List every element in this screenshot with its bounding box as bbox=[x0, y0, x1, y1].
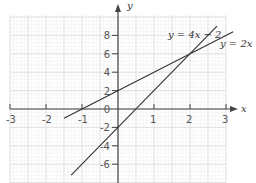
y-axis-arrow-icon bbox=[115, 4, 121, 12]
y-tick-label: -6 bbox=[100, 159, 110, 170]
y-axis-label: y bbox=[126, 0, 133, 11]
x-tick-label: -1 bbox=[78, 114, 88, 125]
y-tick-label: 0 bbox=[104, 104, 110, 115]
x-axis-label: x bbox=[241, 103, 247, 114]
y-tick-label: 8 bbox=[104, 30, 110, 41]
x-axis-arrow-icon bbox=[230, 106, 238, 112]
x-tick-label: -2 bbox=[42, 114, 52, 125]
x-tick-label: 2 bbox=[186, 114, 192, 125]
x-tick-label: 1 bbox=[150, 114, 156, 125]
x-tick-label: 3 bbox=[222, 114, 228, 125]
y-tick-label: 4 bbox=[104, 67, 110, 78]
x-tick-label: -3 bbox=[6, 114, 16, 125]
y-tick-label: -2 bbox=[100, 122, 110, 133]
y-tick-label: -4 bbox=[100, 141, 110, 152]
line-4x-minus-2 bbox=[71, 26, 217, 175]
line-label-4x-minus-2: y = 4x − 2 bbox=[167, 29, 222, 40]
line-label-2x-plus-2: y = 2x + 2 bbox=[219, 38, 256, 49]
y-tick-label: 6 bbox=[104, 49, 110, 60]
chart: -3-2-112386420-2-4-6 y = 4x − 2 y = 2x +… bbox=[0, 0, 256, 183]
